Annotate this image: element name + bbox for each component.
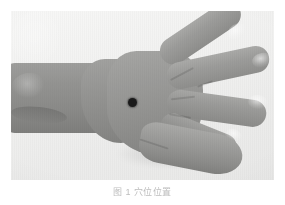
photo-plate [11, 11, 274, 180]
figure-caption: 图 1 穴位位置 [0, 186, 285, 198]
photo-vignette [11, 11, 274, 180]
figure-page: 图 1 穴位位置 [0, 0, 285, 205]
